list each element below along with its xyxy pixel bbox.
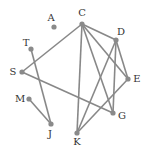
- node-label-G: G: [118, 110, 126, 121]
- node-label-D: D: [117, 26, 125, 37]
- edge-E-K: [77, 79, 128, 133]
- node-M: [26, 96, 31, 101]
- edges-layer: [22, 24, 128, 133]
- node-label-J: J: [47, 128, 52, 139]
- edge-D-G: [113, 40, 116, 113]
- node-label-A: A: [46, 12, 55, 23]
- node-label-T: T: [23, 37, 30, 48]
- labels-layer: ACDTSEMGJK: [10, 7, 141, 147]
- node-D: [113, 37, 118, 42]
- node-label-K: K: [73, 136, 81, 147]
- edge-D-E: [116, 40, 128, 79]
- node-G: [110, 110, 115, 115]
- edge-C-K: [77, 24, 82, 133]
- node-E: [125, 76, 130, 81]
- node-label-S: S: [10, 66, 17, 77]
- node-S: [19, 69, 24, 74]
- node-A: [51, 24, 56, 29]
- edge-D-K: [77, 40, 116, 133]
- node-label-M: M: [15, 93, 25, 104]
- node-C: [79, 21, 84, 26]
- node-label-C: C: [78, 7, 86, 18]
- network-graph: ACDTSEMGJK: [0, 0, 148, 155]
- node-J: [48, 121, 53, 126]
- node-label-E: E: [133, 73, 140, 84]
